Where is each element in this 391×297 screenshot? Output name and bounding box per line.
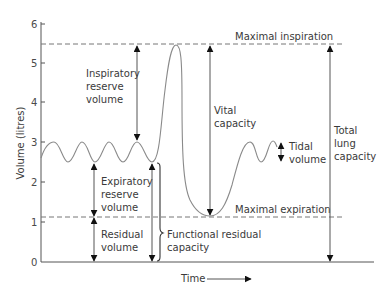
max-expiration-label: Maximal expiration: [235, 204, 331, 215]
y-tick-2: 2: [31, 177, 37, 188]
svg-text:capacity: capacity: [334, 151, 376, 162]
y-tick-4: 4: [31, 97, 37, 108]
max-inspiration-label: Maximal inspiration: [235, 31, 333, 42]
svg-text:Expiratory: Expiratory: [101, 176, 153, 187]
volume-curve: [41, 45, 277, 216]
svg-text:capacity: capacity: [167, 242, 209, 253]
svg-text:Vital: Vital: [214, 105, 236, 116]
svg-text:Time: Time: [180, 273, 205, 284]
frc-brace: [157, 163, 163, 261]
rv-label: Residual volume: [101, 229, 143, 253]
svg-text:Functional residual: Functional residual: [167, 229, 261, 240]
irv-label: Inspiratory reserve volume: [86, 68, 140, 105]
y-tick-6: 6: [31, 19, 37, 30]
y-axis-label: Volume (litres): [15, 106, 26, 179]
svg-text:lung: lung: [334, 138, 356, 149]
vc-label: Vital capacity: [214, 105, 256, 129]
y-tick-1: 1: [31, 217, 37, 228]
svg-text:volume: volume: [86, 94, 123, 105]
x-axis-label: Time: [180, 273, 251, 284]
lung-volumes-diagram: 6 5 4 3 2 1 0 Volume (litres) Maximal in…: [0, 0, 391, 297]
svg-text:volume: volume: [289, 154, 326, 165]
tv-label: Tidal volume: [288, 141, 326, 165]
y-axis: 6 5 4 3 2 1 0 Volume (litres): [15, 19, 45, 268]
svg-text:Total: Total: [333, 125, 357, 136]
frc-label: Functional residual capacity: [167, 229, 261, 253]
svg-text:capacity: capacity: [214, 118, 256, 129]
svg-text:reserve: reserve: [101, 189, 139, 200]
svg-text:Tidal: Tidal: [288, 141, 313, 152]
svg-text:volume: volume: [101, 242, 138, 253]
svg-text:volume: volume: [101, 202, 138, 213]
y-tick-3: 3: [31, 137, 37, 148]
y-tick-5: 5: [31, 58, 37, 69]
svg-text:Residual: Residual: [101, 229, 143, 240]
svg-text:reserve: reserve: [86, 81, 124, 92]
y-tick-0: 0: [31, 257, 37, 268]
svg-text:Inspiratory: Inspiratory: [86, 68, 140, 79]
erv-label: Expiratory reserve volume: [101, 176, 153, 213]
tlc-label: Total lung capacity: [333, 125, 376, 162]
